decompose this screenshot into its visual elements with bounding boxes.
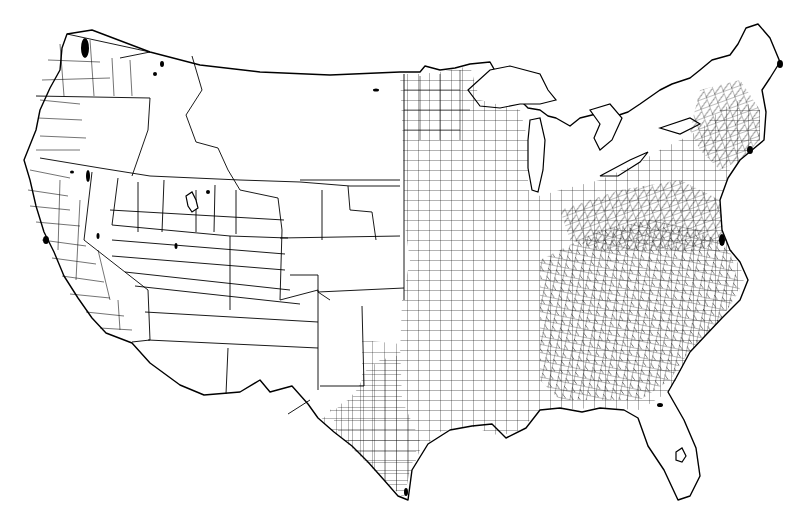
county-boundary-map-svg bbox=[0, 0, 810, 526]
us-county-map bbox=[0, 0, 810, 526]
